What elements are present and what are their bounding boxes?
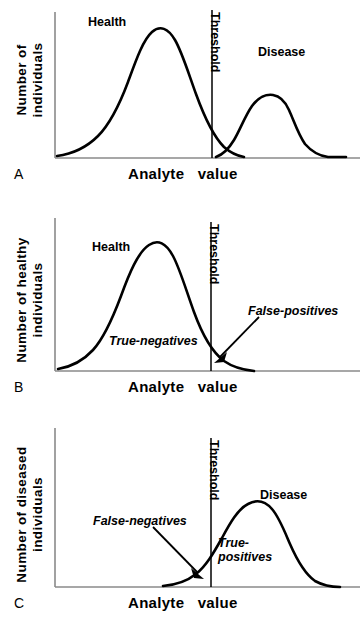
false-positives-label: False-positives xyxy=(248,304,338,318)
panel-letter-c: C xyxy=(14,595,24,611)
panel-b-y-axis-label: Number of healthy individuals xyxy=(14,210,45,390)
figure-three-panel-analyte-distributions: Number of individuals Health Disease Thr… xyxy=(0,0,362,620)
disease-curve xyxy=(216,95,346,157)
false-negatives-arrow-shaft xyxy=(153,527,197,572)
y-axis-label-line2: individuals xyxy=(30,43,45,118)
true-positives-label: True- positives xyxy=(218,536,272,564)
false-negatives-label: False-negatives xyxy=(93,514,187,528)
threshold-label: Threshold xyxy=(207,224,221,284)
threshold-label: Threshold xyxy=(207,440,221,500)
panel-a-x-axis-label: Analyte value xyxy=(128,165,238,182)
y-axis-label-line1: Number of diseased xyxy=(14,446,29,582)
health-curve-label: Health xyxy=(92,240,130,254)
true-positives-line2: positives xyxy=(218,550,272,564)
panel-b: Number of healthy individuals Health Thr… xyxy=(0,200,362,410)
y-axis-label-line1: Number of xyxy=(14,44,29,115)
panel-letter-a: A xyxy=(14,166,23,182)
panel-c-x-axis-label: Analyte value xyxy=(128,594,238,611)
true-positives-line1: True- xyxy=(218,536,249,550)
health-curve-label: Health xyxy=(88,15,126,29)
true-negatives-label: True-negatives xyxy=(109,334,198,348)
y-axis-label-line2: individuals xyxy=(30,263,45,338)
panel-c-y-axis-label: Number of diseased individuals xyxy=(14,422,45,607)
threshold-label: Threshold xyxy=(208,12,222,72)
panel-a-y-axis-label: Number of individuals xyxy=(14,10,45,150)
panel-b-x-axis-label: Analyte value xyxy=(128,378,238,395)
disease-curve-label: Disease xyxy=(260,488,307,502)
false-positives-arrow-shaft xyxy=(220,317,259,357)
y-axis-label-line1: Number of healthy xyxy=(14,237,29,362)
panel-c: Number of diseased individuals Disease T… xyxy=(0,410,362,620)
panel-letter-b: B xyxy=(14,379,23,395)
panel-a: Number of individuals Health Disease Thr… xyxy=(0,0,362,200)
disease-curve-label: Disease xyxy=(258,45,305,59)
y-axis-label-line2: individuals xyxy=(30,477,45,552)
